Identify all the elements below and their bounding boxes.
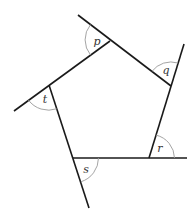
angle-label-t: t [43,93,48,106]
angle-label-p: p [93,35,100,48]
edge-p-q [78,15,171,86]
angle-arc-p [85,25,91,55]
angle-label-r: r [157,142,163,155]
pentagon-diagram: p q r s t [0,0,195,222]
angle-label-q: q [162,64,169,77]
edge-s-t [49,85,89,208]
angle-label-s: s [83,163,89,176]
